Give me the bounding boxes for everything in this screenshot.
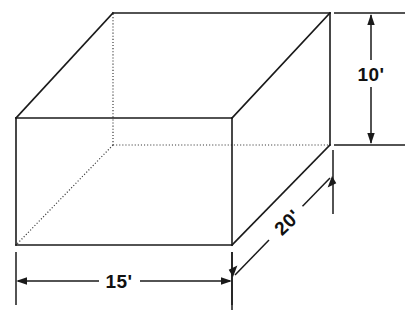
depth-dimension-group: 20' [229,150,337,310]
height-arrow-down-icon [367,133,374,144]
depth-arrow-lower-icon [229,266,238,278]
depth-dimension-line-lower [235,240,269,275]
width-arrow-left-icon [16,277,27,284]
box-edge-top-right-diagonal [232,13,330,118]
width-dimension-group: 15' [16,252,232,305]
box-dimension-diagram: 10' 15' [0,0,409,313]
hidden-edge-bottom-left-diagonal [17,145,113,244]
box-edge-top-left-diagonal [16,13,113,118]
width-dimension-label: 15' [105,271,132,292]
height-dimension-label: 10' [357,64,384,85]
diagram-canvas: 10' 15' [0,0,409,313]
height-arrow-up-icon [367,14,374,25]
width-arrow-right-icon [221,277,232,284]
depth-arrow-upper-icon [328,176,337,188]
height-dimension-group: 10' [334,13,405,145]
